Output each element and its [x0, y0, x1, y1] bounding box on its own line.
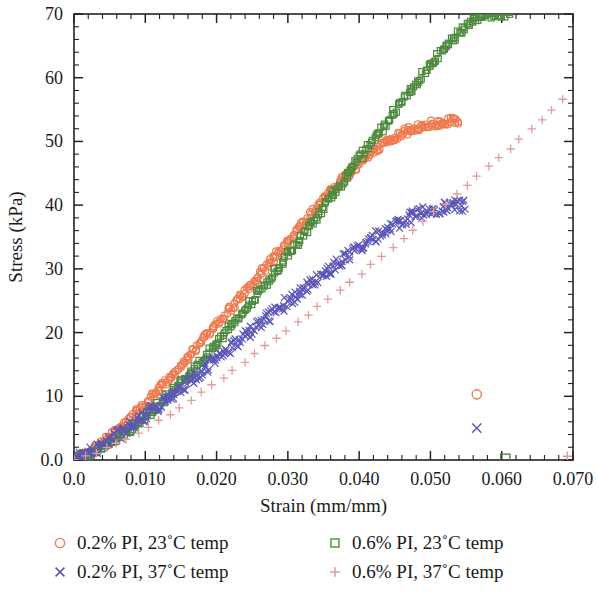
- data-point-plus: [250, 349, 258, 357]
- data-point-plus: [313, 302, 321, 310]
- data-point-plus: [207, 381, 215, 389]
- data-point-plus: [304, 311, 312, 319]
- legend-label: 0.2% PI, 23˚C temp: [77, 533, 228, 552]
- data-point-plus: [261, 341, 269, 349]
- x-tick-label: 0.020: [196, 469, 237, 489]
- x-tick-label: 0.030: [268, 469, 309, 489]
- data-point-plus: [220, 374, 228, 382]
- x-tick-label: 0.040: [339, 469, 380, 489]
- x-tick-label: 0.060: [481, 469, 522, 489]
- y-tick-label: 40: [45, 195, 63, 215]
- data-point-plus: [324, 295, 332, 303]
- stress-strain-figure: 0.00.0100.0200.0300.0400.0500.0600.0700.…: [0, 0, 596, 592]
- data-point-plus: [547, 106, 555, 114]
- y-tick-label: 0.0: [41, 450, 64, 470]
- data-point-plus: [506, 145, 514, 153]
- data-point-plus: [282, 327, 290, 335]
- data-point-plus: [515, 135, 523, 143]
- legend-label: 0.2% PI, 37˚C temp: [77, 562, 228, 581]
- data-point-plus: [485, 162, 493, 170]
- y-tick-label: 60: [45, 68, 63, 88]
- data-point-plus: [528, 125, 536, 133]
- x-tick-label: 0.010: [125, 469, 166, 489]
- data-point-plus: [472, 172, 480, 180]
- data-point-plus: [294, 318, 302, 326]
- data-point-plus: [166, 411, 174, 419]
- chart-legend: 0.2% PI, 23˚C temp 0.6% PI, 23˚C temp 0.…: [52, 528, 552, 586]
- data-point-x: [472, 424, 481, 433]
- data-point-plus: [272, 334, 280, 342]
- plus-marker-icon: [327, 564, 343, 580]
- data-point-plus: [197, 388, 205, 396]
- y-tick-label: 20: [45, 323, 63, 343]
- data-point-plus: [463, 181, 471, 189]
- data-point-plus: [358, 270, 366, 278]
- data-point-plus: [175, 404, 183, 412]
- data-point-plus: [400, 234, 408, 242]
- legend-item-1: 0.6% PI, 23˚C temp: [327, 533, 552, 552]
- data-point-plus: [241, 358, 249, 366]
- data-point-plus: [154, 416, 162, 424]
- x-tick-label: 0.070: [553, 469, 594, 489]
- legend-label: 0.6% PI, 37˚C temp: [352, 562, 503, 581]
- data-point-plus: [377, 252, 385, 260]
- series-0: [71, 114, 481, 465]
- y-tick-label: 10: [45, 386, 63, 406]
- data-point-plus: [187, 396, 195, 404]
- data-layer: [70, 8, 572, 466]
- series-2: [70, 197, 482, 466]
- data-point-plus: [144, 423, 152, 431]
- data-point-plus: [346, 278, 354, 286]
- data-point-plus: [419, 217, 427, 225]
- legend-item-2: 0.2% PI, 37˚C temp: [52, 562, 327, 581]
- x-tick-label: 0.050: [410, 469, 451, 489]
- data-point-plus: [453, 190, 461, 198]
- legend-item-3: 0.6% PI, 37˚C temp: [327, 562, 552, 581]
- data-point-plus: [336, 286, 344, 294]
- data-point-plus: [495, 153, 503, 161]
- x-tick-label: 0.0: [63, 469, 86, 489]
- data-point-x: [451, 206, 458, 213]
- stress-strain-chart: 0.00.0100.0200.0300.0400.0500.0600.0700.…: [0, 0, 596, 525]
- data-point-plus: [389, 243, 397, 251]
- y-tick-label: 70: [45, 4, 63, 24]
- data-point-square: [490, 8, 496, 14]
- y-axis-title: Stress (kPa): [5, 191, 27, 282]
- data-point-plus: [558, 95, 566, 103]
- x-marker-icon: [52, 564, 68, 580]
- y-tick-label: 30: [45, 259, 63, 279]
- y-tick-label: 50: [45, 131, 63, 151]
- legend-label: 0.6% PI, 23˚C temp: [352, 533, 503, 552]
- circle-marker-icon: [52, 535, 68, 551]
- data-point-square: [504, 8, 510, 14]
- square-marker-icon: [327, 535, 343, 551]
- data-point-plus: [228, 366, 236, 374]
- legend-item-0: 0.2% PI, 23˚C temp: [52, 533, 327, 552]
- data-point-circle: [472, 390, 481, 399]
- data-point-plus: [538, 116, 546, 124]
- data-point-plus: [366, 260, 374, 268]
- x-axis-title: Strain (mm/mm): [260, 495, 387, 517]
- data-point-x: [462, 206, 469, 213]
